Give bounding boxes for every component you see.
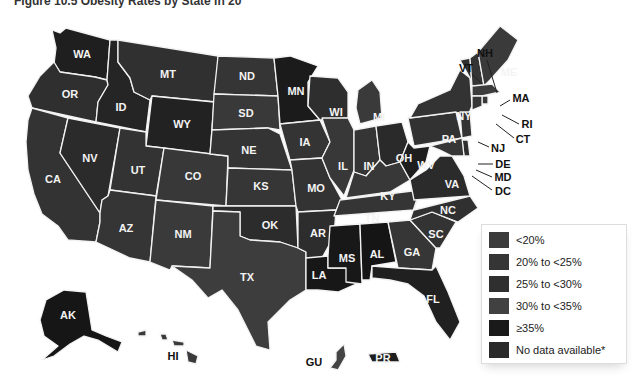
label-nv: NV [82, 152, 98, 164]
label-pr: PR [375, 352, 390, 364]
legend-swatch [489, 254, 509, 270]
label-il: IL [338, 160, 348, 172]
label-ks: KS [253, 180, 268, 192]
label-oh: OH [396, 152, 413, 164]
state-rn[interactable] [482, 96, 488, 104]
legend-swatch [489, 276, 509, 292]
state-ak[interactable] [40, 290, 122, 360]
legend-label: ≥35% [516, 322, 544, 334]
label-wv: WV [417, 159, 435, 171]
legend-label: <20% [516, 234, 544, 246]
label-ri: RI [522, 118, 533, 130]
state-hi-4[interactable] [186, 350, 198, 364]
label-mi: MI [373, 111, 385, 123]
legend-swatch [489, 342, 509, 358]
label-az: AZ [119, 222, 134, 234]
label-al: AL [370, 248, 385, 260]
label-or: OR [62, 88, 79, 100]
legend-item-25to30: 25% to <30% [489, 275, 582, 293]
label-ok: OK [262, 219, 279, 231]
legend-swatch [489, 298, 509, 314]
label-tn: TN [365, 212, 380, 224]
state-fl[interactable] [372, 266, 460, 340]
legend-swatch [489, 232, 509, 248]
label-ma: MA [512, 92, 529, 104]
state-hi-3[interactable] [172, 340, 184, 346]
leader-dc [472, 176, 492, 190]
legend-label: 20% to <25% [516, 256, 582, 268]
label-ct: CT [516, 133, 531, 145]
label-va: VA [445, 178, 460, 190]
legend-label: 30% to <35% [516, 300, 582, 312]
label-nj: NJ [491, 142, 505, 154]
label-md: MD [494, 171, 511, 183]
label-ia: IA [300, 136, 311, 148]
label-id: ID [116, 101, 127, 113]
label-gu: GU [306, 356, 323, 368]
label-wa: WA [73, 48, 91, 60]
label-mn: MN [287, 85, 304, 97]
leader-ct [496, 124, 514, 138]
label-nc: NC [440, 204, 456, 216]
legend-item-lt20: <20% [489, 231, 544, 249]
legend-label: No data available* [516, 344, 605, 356]
legend-label: 25% to <30% [516, 278, 582, 290]
label-dc: DC [495, 185, 511, 197]
label-de: DE [495, 158, 510, 170]
label-ny: NY [456, 110, 472, 122]
leader-ma [500, 100, 510, 106]
territory-gu[interactable] [330, 344, 346, 370]
label-ca: CA [45, 173, 61, 185]
leader-md [476, 170, 492, 177]
label-mt: MT [160, 68, 176, 80]
legend: <20% 20% to <25% 25% to <30% 30% to <35%… [481, 224, 627, 364]
label-ms: MS [339, 252, 356, 264]
label-sc: SC [428, 228, 443, 240]
legend-item-nodata: No data available* [489, 341, 605, 359]
label-wy: WY [173, 118, 191, 130]
label-fl: FL [426, 293, 440, 305]
state-hi-1[interactable] [138, 330, 146, 336]
label-sd: SD [238, 107, 253, 119]
label-pa: PA [442, 133, 457, 145]
leader-nj [478, 142, 489, 147]
label-nd: ND [239, 70, 255, 82]
label-ut: UT [131, 164, 146, 176]
legend-swatch [489, 320, 509, 336]
label-tx: TX [240, 271, 255, 283]
label-wi: WI [329, 106, 342, 118]
legend-item-20to25: 20% to <25% [489, 253, 582, 271]
label-la: LA [312, 269, 327, 281]
label-ga: GA [404, 246, 421, 258]
label-ne: NE [241, 144, 256, 156]
label-co: CO [185, 170, 202, 182]
legend-item-ge35: ≥35% [489, 319, 544, 337]
state-hi-2[interactable] [160, 334, 168, 340]
state-ct[interactable] [472, 96, 482, 110]
label-ak: AK [60, 309, 76, 321]
label-in: IN [364, 160, 375, 172]
label-vt: VT [459, 62, 473, 74]
label-mo: MO [307, 182, 325, 194]
label-ar: AR [310, 227, 326, 239]
label-me: ME [501, 66, 518, 78]
label-nh: NH [477, 47, 493, 59]
label-nm: NM [174, 228, 191, 240]
label-hi: HI [168, 350, 179, 362]
label-ky: KY [380, 190, 396, 202]
leader-ri [502, 115, 519, 124]
legend-item-30to35: 30% to <35% [489, 297, 582, 315]
